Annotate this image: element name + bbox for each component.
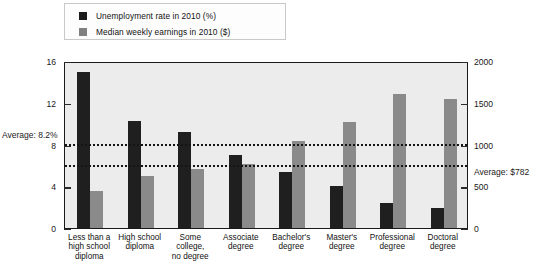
legend-item-earnings: Median weekly earnings in 2010 ($) (79, 25, 285, 39)
bar-earnings (444, 99, 457, 228)
bar-unemployment (380, 203, 393, 228)
y-axis-right-tick-mark (461, 229, 468, 230)
bar-earnings (343, 122, 356, 228)
avg-unemployment-label: Average: 8.2% (2, 130, 58, 140)
y-axis-right-tick: 0 (474, 224, 479, 234)
x-axis-labels: Less than ahigh schooldiplomaHigh school… (64, 233, 468, 271)
y-axis-right-tick: 500 (474, 182, 488, 192)
legend-item-unemployment: Unemployment rate in 2010 (%) (79, 9, 285, 23)
legend-swatch-gray-icon (79, 28, 87, 36)
bar-earnings (141, 176, 154, 228)
y-axis-left-tick: 4 (0, 182, 56, 192)
plot-inner (65, 63, 467, 228)
bar-unemployment (279, 172, 292, 228)
y-axis-left-tick-mark (64, 146, 71, 147)
y-axis-right-tick: 1500 (474, 99, 493, 109)
bar-earnings (90, 191, 103, 228)
x-axis-label: Doctoraldegree (414, 233, 473, 252)
y-axis-left-tick-mark (64, 229, 71, 230)
chart-legend: Unemployment rate in 2010 (%) Median wee… (64, 3, 286, 40)
avg-line-earnings (65, 165, 467, 167)
bar-unemployment (77, 72, 90, 228)
legend-label-unemployment: Unemployment rate in 2010 (%) (96, 11, 216, 21)
y-axis-left-tick: 16 (0, 57, 56, 67)
plot-area (64, 62, 468, 229)
y-axis-left-tick-mark (64, 104, 71, 105)
chart-container: Unemployment rate in 2010 (%) Median wee… (0, 0, 536, 271)
bar-earnings (292, 141, 305, 228)
avg-line-unemployment (65, 144, 467, 146)
avg-earnings-label: Average: $782 (474, 167, 529, 177)
bar-unemployment (128, 121, 141, 229)
bar-earnings (191, 169, 204, 228)
y-axis-right-tick-mark (461, 146, 468, 147)
y-axis-right-tick-mark (461, 104, 468, 105)
y-axis-right-tick-mark (461, 62, 468, 63)
y-axis-right-tick: 1000 (474, 141, 493, 151)
y-axis-right-tick: 2000 (474, 57, 493, 67)
y-axis-left-tick: 8 (0, 141, 56, 151)
bar-earnings (242, 164, 255, 228)
y-axis-left-tick-mark (64, 62, 71, 63)
y-axis-left-tick: 0 (0, 224, 56, 234)
y-axis-left-tick-mark (64, 187, 71, 188)
y-axis-right-tick-mark (461, 187, 468, 188)
bar-earnings (393, 94, 406, 228)
legend-swatch-black-icon (79, 12, 87, 20)
y-axis-left-tick: 12 (0, 99, 56, 109)
bar-unemployment (330, 186, 343, 228)
legend-label-earnings: Median weekly earnings in 2010 ($) (96, 27, 230, 37)
bar-unemployment (431, 208, 444, 228)
